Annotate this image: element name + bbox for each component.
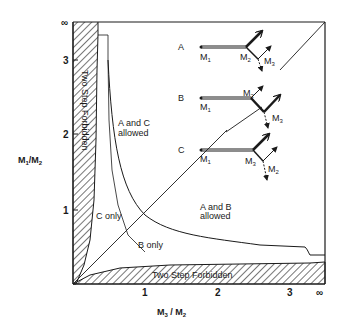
y-axis-title: M1/M2 [18, 155, 43, 166]
y-tick-1: 1 [63, 205, 69, 216]
a-and-c-label-1: A and C [118, 118, 151, 128]
svg-text:M1: M1 [200, 102, 212, 113]
svg-text:A: A [178, 42, 184, 52]
svg-text:M3: M3 [264, 56, 276, 67]
svg-text:M3: M3 [245, 156, 257, 167]
svg-text:C: C [178, 145, 185, 155]
inset-b: B M1 M2 M3 [178, 86, 284, 128]
svg-text:M1: M1 [200, 52, 212, 63]
left-forbidden-region [73, 22, 98, 284]
svg-text:M2: M2 [240, 52, 252, 63]
bottom-forbidden-label: Two Step Forbidden [152, 270, 233, 280]
svg-text:M2: M2 [268, 164, 280, 175]
y-tick-inf: ∞ [61, 17, 68, 28]
svg-text:M2: M2 [243, 88, 255, 99]
inset-a: A M1 M2 M3 [178, 31, 276, 71]
x-axis-title: M3 / M2 [157, 307, 187, 318]
y-tick-3: 3 [63, 55, 69, 66]
x-tick-inf: ∞ [316, 287, 323, 298]
decay-region-diagram: 1 2 3 ∞ 1 2 3 ∞ M1/M2 M3 / M2 Two Step F… [0, 0, 343, 332]
svg-text:M3: M3 [272, 113, 284, 124]
svg-text:M1: M1 [200, 154, 212, 165]
x-tick-2: 2 [215, 287, 221, 298]
hyperbola-boundary [108, 60, 325, 255]
svg-text:B: B [178, 93, 184, 103]
y-tick-2: 2 [63, 129, 69, 140]
diagonal-line-mid [226, 107, 262, 132]
x-tick-3: 3 [287, 287, 293, 298]
c-only-label: C only [96, 211, 122, 221]
a-and-b-label-2: allowed [200, 211, 231, 221]
inset-c: C M1 M3 M2 [178, 134, 280, 180]
a-and-c-label-2: allowed [118, 128, 149, 138]
diagonal-line-upper [280, 22, 325, 70]
left-forbidden-label: Two Step Forbidden [80, 70, 90, 151]
x-tick-1: 1 [142, 287, 148, 298]
b-only-label: B only [138, 240, 164, 250]
